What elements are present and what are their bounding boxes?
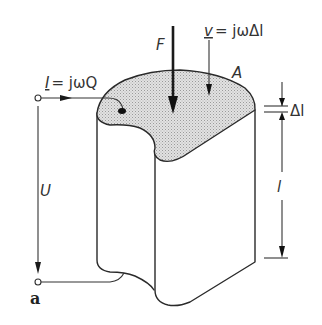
- velocity-label: v= jωΔl: [204, 22, 263, 40]
- top-electrode-surface: [97, 70, 255, 161]
- piezo-element-diagram: I= jωQ F v= jωΔl A Δl l U a: [0, 0, 322, 325]
- length-label: l: [277, 178, 282, 196]
- contact-dot: [118, 108, 126, 114]
- delta-l-arrowhead-top-icon: [279, 98, 285, 106]
- length-dimension: [264, 120, 288, 258]
- diagram-canvas: I= jωQ F v= jωΔl A Δl l U a: [0, 0, 322, 325]
- delta-l-arrowhead-bottom-icon: [279, 112, 285, 120]
- bottom-wire-path: [41, 273, 124, 282]
- delta-l-dimension: [264, 82, 288, 120]
- bottom-terminal: [35, 279, 41, 285]
- current-arrowhead-icon: [60, 95, 72, 101]
- bottom-wire: [35, 273, 124, 285]
- top-terminal: [35, 95, 41, 101]
- voltage-arrowhead-icon: [35, 262, 41, 274]
- current-label: I= jωQ: [45, 74, 97, 92]
- area-label: A: [231, 64, 242, 82]
- voltage-label: U: [40, 182, 51, 200]
- force-label: F: [156, 36, 165, 54]
- delta-l-label: Δl: [290, 102, 304, 120]
- length-arrowhead-icon: [279, 246, 285, 258]
- left-wall-edge: [97, 113, 154, 290]
- panel-label: a: [30, 289, 40, 308]
